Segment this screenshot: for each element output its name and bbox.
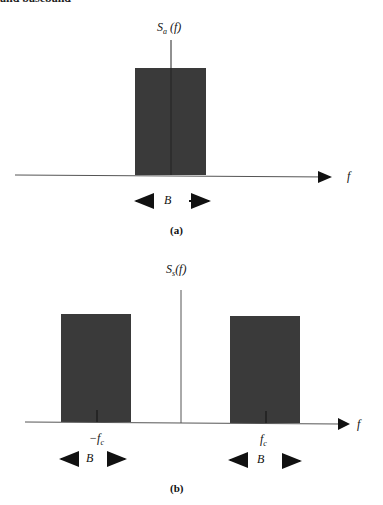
caption-a: (a) xyxy=(170,224,183,236)
bandwidth-label-pos: B xyxy=(257,452,264,467)
negative-band-block xyxy=(61,314,131,422)
neg-center-main: −f xyxy=(89,431,100,445)
pos-center-sub: c xyxy=(263,439,267,448)
bandwidth-label-a: B xyxy=(164,193,171,208)
bandwidth-label-neg: B xyxy=(86,451,93,466)
frequency-axis-arrowhead-a xyxy=(318,171,332,183)
neg-center-label: −fc xyxy=(89,431,104,447)
xlabel-a: f xyxy=(347,169,350,184)
caption-b: (b) xyxy=(170,482,183,494)
positive-band-block xyxy=(230,316,300,423)
frequency-axis-arrowhead-b xyxy=(338,418,350,430)
neg-center-sub: c xyxy=(100,438,104,447)
xlabel-b: f xyxy=(357,417,360,432)
pos-center-label: fc xyxy=(260,432,267,448)
ylabel-b: Ss(f) xyxy=(166,262,186,278)
spectrum-diagram xyxy=(0,0,383,505)
ylabel-a-arg: (f) xyxy=(170,20,181,34)
ylabel-a: Sa (f) xyxy=(157,20,181,36)
frequency-axis-a xyxy=(15,175,330,177)
ylabel-b-arg: (f) xyxy=(175,262,186,276)
